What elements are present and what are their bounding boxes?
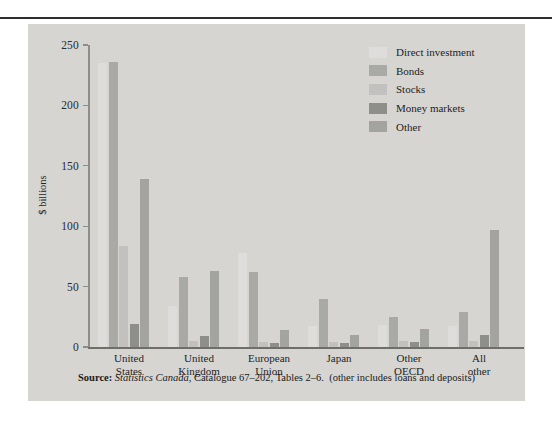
legend-label: Stocks [396,83,425,95]
legend-item: Money markets [369,99,475,118]
bar-group: United Kingdom [168,45,230,347]
bar [179,277,188,347]
bar [249,272,258,347]
bar-group: Japan [308,45,370,347]
bar [189,341,198,347]
bar-group: United States [98,45,160,347]
x-axis-category-label: Japan [326,352,351,365]
bar [168,306,177,347]
legend-swatch-icon [369,121,387,132]
bar [140,179,149,347]
bar [109,62,118,347]
source-prefix: Source: [78,372,112,383]
bar [130,324,139,347]
bar-group: European Union [238,45,300,347]
bar [448,326,457,347]
bar [480,335,489,347]
bar [238,253,247,347]
bar [389,317,398,347]
y-tick-label: 250 [61,39,79,51]
y-tick-label: 200 [61,99,79,111]
legend-item: Direct investment [369,43,475,62]
bar [350,335,359,347]
chart-legend: Direct investmentBondsStocksMoney market… [369,43,475,136]
legend-item: Stocks [369,80,475,99]
y-tick-label: 100 [61,220,79,232]
figure-root: $ billions 050100150200250 United States… [0,0,552,421]
legend-swatch-icon [369,47,387,58]
bar [259,342,268,347]
legend-item: Other [369,117,475,136]
bar-set [308,45,370,347]
bar [378,325,387,347]
bar [459,312,468,347]
source-detail: , Catalogue 67–202, Tables 2–6. [189,372,324,383]
bar [270,343,279,347]
legend-item: Bonds [369,62,475,81]
bar [119,246,128,347]
legend-swatch-icon [369,84,387,95]
bar [410,342,419,347]
legend-label: Direct investment [396,46,475,58]
bar [98,63,107,347]
legend-label: Other [396,121,421,133]
x-axis-line [88,347,524,349]
y-tick-label: 0 [73,341,79,353]
y-axis-title: $ billions [37,175,48,214]
bar [319,299,328,347]
bar-set [238,45,300,347]
legend-swatch-icon [369,103,387,114]
y-tick-label: 50 [67,281,79,293]
legend-swatch-icon [369,65,387,76]
source-note: (other includes loans and deposits) [329,372,475,383]
bar [280,330,289,347]
top-divider-rule [0,17,552,19]
legend-label: Money markets [396,102,465,114]
bar [399,341,408,347]
source-caption: Source: Statistics Canada, Catalogue 67–… [28,372,525,383]
bar [490,230,499,347]
bar [210,271,219,347]
bar [329,342,338,347]
bar [200,336,209,347]
legend-label: Bonds [396,65,424,77]
source-publisher: Statistics Canada [115,372,189,383]
bar [340,343,349,347]
bar-set [168,45,230,347]
bar [308,326,317,347]
bar [469,341,478,347]
bar [420,329,429,347]
y-tick-label: 150 [61,160,79,172]
chart-panel: $ billions 050100150200250 United States… [28,24,525,401]
bar-set [98,45,160,347]
